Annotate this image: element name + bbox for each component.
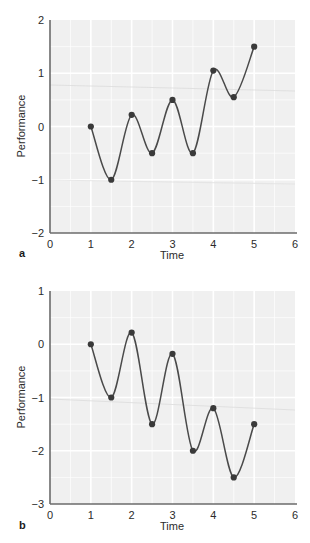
y-tick-label: −2 xyxy=(31,227,44,239)
y-tick-label: −1 xyxy=(31,392,44,404)
data-point xyxy=(169,97,175,103)
data-point xyxy=(210,405,216,411)
data-point xyxy=(190,150,196,156)
data-point xyxy=(169,351,175,357)
y-tick-label: −2 xyxy=(31,445,44,457)
data-point xyxy=(149,150,155,156)
data-point xyxy=(251,44,257,50)
y-axis-title: Performance xyxy=(15,366,27,429)
panel-b-plot: 0123456 −3−2−101 Time Performance xyxy=(0,271,310,543)
x-tick-label: 4 xyxy=(210,509,216,521)
panel-a: 0123456 −2−1012 Time Performance a xyxy=(0,0,310,271)
y-tick-label: 0 xyxy=(38,338,44,350)
data-point xyxy=(231,94,237,100)
y-tick-label: −1 xyxy=(31,174,44,186)
x-tick-label: 1 xyxy=(88,238,94,250)
x-tick-label: 4 xyxy=(210,238,216,250)
data-point xyxy=(149,421,155,427)
x-tick-label: 0 xyxy=(47,509,53,521)
data-point xyxy=(190,448,196,454)
data-point xyxy=(88,123,94,129)
x-axis-title: Time xyxy=(160,520,184,532)
data-point xyxy=(210,67,216,73)
x-tick-label: 1 xyxy=(88,509,94,521)
data-point xyxy=(88,341,94,347)
x-tick-label: 5 xyxy=(251,509,257,521)
panel-a-plot: 0123456 −2−1012 Time Performance xyxy=(0,0,310,271)
data-point xyxy=(108,394,114,400)
panel-letter-a: a xyxy=(19,247,25,259)
data-point xyxy=(251,421,257,427)
y-tick-label: 2 xyxy=(38,14,44,26)
y-tick-label: 1 xyxy=(38,67,44,79)
x-tick-label: 5 xyxy=(251,238,257,250)
x-tick-label: 2 xyxy=(129,509,135,521)
y-tick-label: 1 xyxy=(38,285,44,297)
x-tick-label: 2 xyxy=(129,238,135,250)
y-axis-tick-labels: −2−1012 xyxy=(31,14,44,239)
y-axis-title: Performance xyxy=(15,95,27,158)
x-axis-title: Time xyxy=(160,249,184,261)
panel-b: 0123456 −3−2−101 Time Performance b xyxy=(0,271,310,543)
x-tick-label: 0 xyxy=(47,238,53,250)
data-point xyxy=(108,177,114,183)
chart-b-svg: 0123456 −3−2−101 Time Performance xyxy=(0,271,310,543)
data-point xyxy=(129,112,135,118)
y-tick-label: −3 xyxy=(31,498,44,510)
x-tick-label: 6 xyxy=(292,509,298,521)
panel-letter-b: b xyxy=(19,519,26,531)
y-axis-tick-labels: −3−2−101 xyxy=(31,285,44,510)
x-tick-label: 6 xyxy=(292,238,298,250)
data-point xyxy=(129,329,135,335)
data-point xyxy=(231,474,237,480)
chart-a-svg: 0123456 −2−1012 Time Performance xyxy=(0,0,310,271)
y-tick-label: 0 xyxy=(38,121,44,133)
